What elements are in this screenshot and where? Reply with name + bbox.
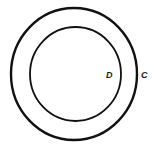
label-c: C bbox=[141, 70, 148, 80]
label-d: D bbox=[106, 70, 113, 80]
concentric-circles-diagram: D C bbox=[0, 0, 154, 149]
